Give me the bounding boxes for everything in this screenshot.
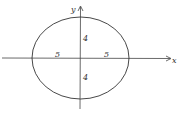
x-axis-label: x	[172, 56, 177, 65]
ellipse-diagram: x y 5 5 4 4	[0, 0, 186, 113]
y-axis	[80, 7, 81, 109]
x-axis	[2, 58, 170, 59]
top-semi-axis-label: 4	[82, 34, 88, 43]
right-semi-axis-label: 5	[104, 50, 109, 59]
y-axis-label: y	[70, 5, 76, 14]
bottom-semi-axis-label: 4	[82, 73, 88, 82]
left-semi-axis-label: 5	[55, 50, 60, 59]
